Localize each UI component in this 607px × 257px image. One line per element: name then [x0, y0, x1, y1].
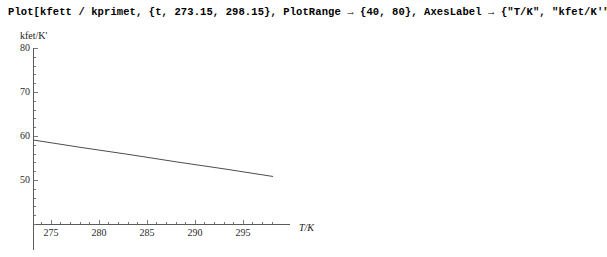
plot-curve-svg	[0, 26, 607, 257]
mathematica-input-line[interactable]: Plot[kfett / kprimet, {t, 273.15, 298.15…	[8, 5, 603, 21]
plot-output: kfet/K' T/K 50607080275280285290295	[0, 26, 607, 257]
data-series-line	[33, 140, 273, 177]
